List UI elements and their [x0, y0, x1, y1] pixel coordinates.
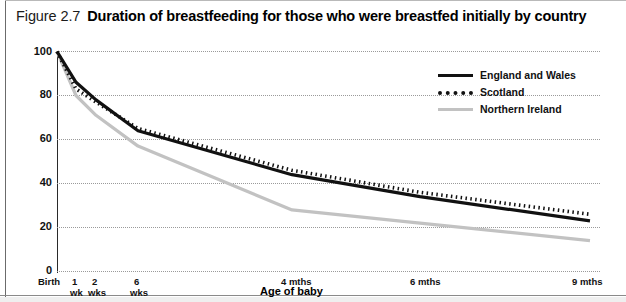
page-title: Duration of breastfeeding for those who …	[87, 8, 586, 24]
chart-legend: England and Wales Scotland Northern Irel…	[438, 69, 588, 120]
x-tick-label-1wk: 1 wk	[72, 276, 83, 298]
y-tick-label-20: 20	[22, 220, 52, 232]
figure-container: Figure 2.7Duration of breastfeeding for …	[0, 0, 626, 302]
x-tick-label-2wks: 2 wks	[92, 276, 106, 298]
x-tick-1wk-line2: wk	[70, 287, 83, 298]
x-tick-label-6mths: 6 mths	[410, 276, 441, 287]
chart-plot-area	[0, 0, 626, 302]
line-dotted-black-icon	[438, 87, 473, 98]
x-tick-2wks-line2: wks	[88, 287, 106, 298]
page-rule-top	[5, 0, 626, 1]
y-tick-label-80: 80	[22, 88, 52, 100]
gridline-40	[57, 183, 600, 185]
figure-number: Figure 2.7	[16, 8, 80, 24]
y-tick-label-60: 60	[22, 132, 52, 144]
legend-item-scotland: Scotland	[438, 86, 588, 98]
y-axis-spine	[57, 51, 58, 273]
x-axis-title: Age of baby	[260, 285, 323, 297]
y-tick-label-0: 0	[22, 264, 52, 276]
gridline-60	[57, 139, 600, 141]
legend-label-northern-ireland: Northern Ireland	[480, 103, 562, 115]
page-rule-left	[5, 0, 6, 302]
x-tick-label-9mths: 9 mths	[572, 276, 603, 287]
y-tick-label-40: 40	[22, 176, 52, 188]
x-tick-6mths-line1: 6 mths	[410, 276, 441, 287]
gridline-20	[57, 227, 600, 229]
x-tick-6wks-line2: wks	[130, 287, 148, 298]
x-tick-9mths-line1: 9 mths	[572, 276, 603, 287]
x-tick-birth-line1: Birth	[38, 276, 60, 287]
legend-item-england-and-wales: England and Wales	[438, 69, 588, 81]
legend-item-northern-ireland: Northern Ireland	[438, 103, 588, 115]
x-tick-6wks-line1: 6	[134, 276, 139, 287]
gridline-100	[57, 51, 600, 53]
x-tick-2wks-line1: 2	[92, 276, 97, 287]
line-solid-gray-icon	[438, 104, 473, 115]
x-tick-1wk-line1: 1	[72, 276, 77, 287]
gridline-0	[57, 271, 600, 273]
x-tick-label-6wks: 6 wks	[134, 276, 148, 298]
legend-label-england-and-wales: England and Wales	[480, 69, 576, 81]
line-solid-black-icon	[438, 70, 473, 81]
x-tick-label-birth: Birth	[38, 276, 60, 287]
figure-title-bar: Figure 2.7Duration of breastfeeding for …	[16, 7, 616, 29]
legend-label-scotland: Scotland	[480, 86, 524, 98]
y-tick-label-100: 100	[22, 45, 52, 57]
